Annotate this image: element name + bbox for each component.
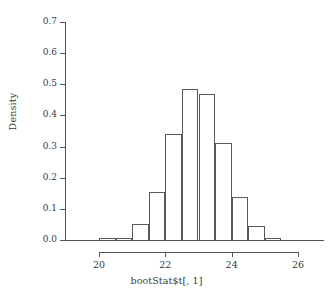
histogram-bar — [199, 94, 216, 241]
histogram-bar — [165, 134, 182, 241]
x-tick-label: 22 — [145, 259, 185, 270]
x-tick-label: 24 — [212, 259, 252, 270]
x-axis-label: bootStat$t[, 1] — [0, 275, 333, 286]
histogram-bar — [215, 143, 232, 241]
x-tick-label: 20 — [79, 259, 119, 270]
x-tick — [298, 252, 299, 257]
histogram-bar — [265, 238, 282, 241]
histogram-bars — [0, 0, 333, 300]
x-tick — [99, 252, 100, 257]
x-tick-label: 26 — [278, 259, 318, 270]
histogram-bar — [99, 238, 116, 241]
histogram-bar — [149, 192, 166, 241]
x-tick — [232, 252, 233, 257]
histogram-bar — [132, 224, 149, 241]
histogram-bar — [248, 226, 265, 241]
x-tick — [165, 252, 166, 257]
histogram-plot: Density 0.00.10.20.30.40.50.60.7 2022242… — [0, 0, 333, 300]
x-axis-line — [99, 252, 298, 253]
histogram-bar — [116, 238, 133, 241]
histogram-bar — [182, 89, 199, 241]
histogram-bar — [232, 197, 249, 241]
